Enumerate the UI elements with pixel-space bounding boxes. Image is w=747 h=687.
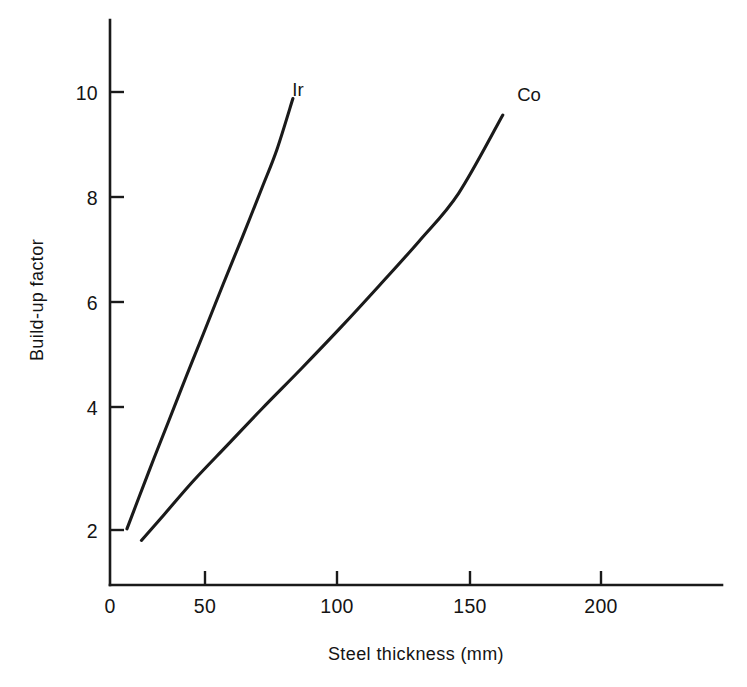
data-curve-co [141, 115, 502, 540]
x-axis-tick-labels: 0 50 100 150 200 [104, 595, 617, 617]
y-axis-tick-labels: 10 8 6 4 2 [76, 82, 98, 542]
x-tick-label-50: 50 [194, 595, 216, 617]
y-tick-label-4: 4 [87, 397, 98, 419]
y-axis-title: Build-up factor [27, 239, 47, 361]
y-tick-label-8: 8 [87, 187, 98, 209]
chart-canvas: 10 8 6 4 2 0 50 100 150 200 Ir Co Steel … [0, 0, 747, 687]
x-tick-label-0: 0 [104, 595, 115, 617]
series-label-co: Co [517, 84, 541, 105]
x-axis-title: Steel thickness (mm) [328, 644, 504, 664]
y-axis-ticks [110, 92, 124, 530]
x-tick-label-150: 150 [453, 595, 486, 617]
x-tick-label-100: 100 [320, 595, 353, 617]
chart-figure: 10 8 6 4 2 0 50 100 150 200 Ir Co Steel … [0, 0, 747, 687]
x-tick-label-200: 200 [584, 595, 617, 617]
x-axis-ticks [205, 571, 601, 585]
y-tick-label-10: 10 [76, 82, 98, 104]
y-tick-label-2: 2 [87, 520, 98, 542]
y-tick-label-6: 6 [87, 292, 98, 314]
series-label-ir: Ir [292, 79, 303, 100]
